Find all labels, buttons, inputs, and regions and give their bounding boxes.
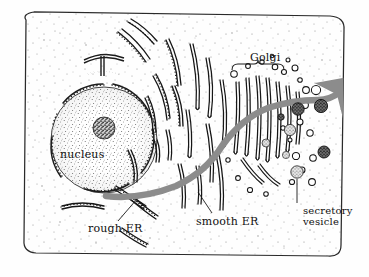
label-secretory-line2: vesicle bbox=[303, 216, 353, 227]
label-nucleus: nucleus bbox=[60, 148, 105, 161]
label-smooth-er: smooth ER bbox=[196, 215, 258, 228]
label-golgi: Golgi bbox=[250, 51, 281, 64]
label-secretory-vesicle: secretory vesicle bbox=[303, 205, 353, 227]
nucleolus bbox=[93, 117, 115, 139]
cell-illustration-svg bbox=[0, 0, 369, 277]
cell-diagram-figure: nucleus Golgi rough ER smooth ER secreto… bbox=[0, 0, 369, 277]
label-secretory-line1: secretory bbox=[303, 205, 353, 216]
label-rough-er: rough ER bbox=[88, 222, 143, 235]
